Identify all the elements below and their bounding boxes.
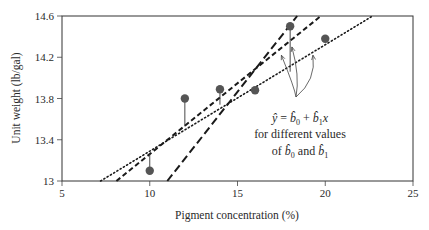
annotation-b1-2-sub: 1 [324,151,328,160]
data-point [146,166,154,174]
x-tick-label: 20 [320,187,332,199]
annotation-and: and [295,144,318,158]
annotation-plus: + [300,111,313,125]
annotation-of: of [272,144,285,158]
data-point [286,22,294,30]
y-tick-label: 14.2 [35,51,54,63]
annotation-arrow [292,47,297,97]
annotation-arrows [281,47,315,97]
y-tick-label: 13.8 [35,93,55,105]
residual-segments [150,26,290,170]
x-axis: 510152025 [59,181,419,199]
annotation-line3: of b̂0 and b̂1 [272,144,328,160]
chart: 510152025 1313.413.814.214.6 Pigment con… [0,0,429,230]
fit-lines [101,16,373,181]
annotation-arrow [281,55,296,97]
line-dotted [101,16,373,181]
annotation-x: x [322,111,329,125]
x-axis-label: Pigment concentration (%) [175,209,299,222]
x-tick-label: 5 [59,187,65,199]
x-tick-label: 25 [408,187,420,199]
y-tick-label: 13 [43,175,55,187]
y-tick-label: 14.6 [35,10,55,22]
y-tick-label: 13.4 [35,134,55,146]
x-tick-label: 10 [144,187,156,199]
data-point [251,86,259,94]
annotation-equation: ŷ = b̂0 + b̂1x [271,111,329,127]
data-point [181,94,189,102]
annotation-eq-rest: = [277,111,290,125]
data-point [216,85,224,93]
data-point [321,34,329,42]
y-axis: 1313.413.814.214.6 [35,10,62,187]
y-axis-label: Unit weight (lb/gal) [10,52,23,144]
annotation-line2: for different values [254,127,346,141]
x-tick-label: 15 [232,187,244,199]
